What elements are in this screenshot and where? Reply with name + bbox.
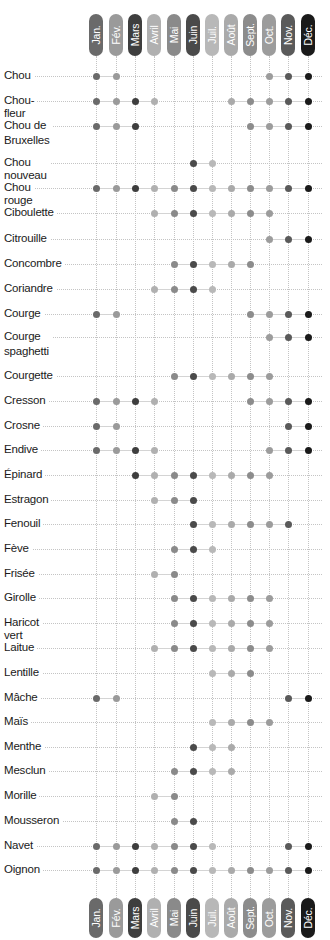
month-label: Fév. <box>110 909 122 928</box>
season-dot <box>190 620 197 627</box>
season-dot <box>151 210 158 217</box>
season-dot <box>285 423 292 430</box>
month-pill-bottom: Sept. <box>243 898 257 938</box>
produce-name: Morille <box>4 789 39 802</box>
month-label: Août <box>225 908 237 929</box>
season-dot <box>132 843 139 850</box>
produce-name-line: Bruxelles <box>4 134 50 147</box>
produce-name-line: Cresson <box>4 394 45 407</box>
row-gridline <box>10 426 322 427</box>
produce-name: Mousseron <box>4 814 62 827</box>
season-dot <box>209 719 216 726</box>
season-dot <box>266 867 273 874</box>
season-dot <box>132 472 139 479</box>
season-dot <box>171 867 178 874</box>
produce-name: Fève <box>4 542 32 555</box>
row-gridline <box>10 673 322 674</box>
season-dot <box>113 447 120 454</box>
produce-name: Estragon <box>4 493 51 506</box>
produce-name-line: Morille <box>4 789 36 802</box>
season-dot <box>305 73 312 80</box>
season-dot <box>93 398 100 405</box>
season-dot <box>190 185 197 192</box>
produce-name-line: Épinard <box>4 468 42 481</box>
season-dot <box>266 73 273 80</box>
season-dot <box>190 546 197 553</box>
season-dot <box>113 98 120 105</box>
season-dot <box>151 645 158 652</box>
season-dot <box>132 398 139 405</box>
produce-name: Épinard <box>4 468 45 481</box>
season-dot <box>132 867 139 874</box>
season-dot <box>171 472 178 479</box>
season-dot <box>93 447 100 454</box>
season-dot <box>305 334 312 341</box>
season-dot <box>113 695 120 702</box>
produce-name-line: Chou de <box>4 119 50 132</box>
month-pill-bottom: Août <box>224 898 238 938</box>
month-label: Fév. <box>110 26 122 45</box>
season-dot <box>113 123 120 130</box>
month-label: Juin <box>187 26 199 44</box>
produce-name: Frisée <box>4 567 38 580</box>
seasonal-produce-chart: Jan.Fév.MarsAvrilMaiJuinJuil.AoûtSept.Oc… <box>0 0 330 940</box>
season-dot <box>93 311 100 318</box>
produce-name-line: Navet <box>4 839 33 852</box>
month-label: Mai <box>168 910 180 926</box>
produce-name-line: Courge <box>4 330 49 343</box>
season-dot <box>171 546 178 553</box>
season-dot <box>209 472 216 479</box>
month-pill-top: Juil. <box>205 14 219 56</box>
season-dot <box>151 98 158 105</box>
season-dot <box>171 768 178 775</box>
season-dot <box>151 398 158 405</box>
season-dot <box>190 818 197 825</box>
season-dot <box>228 867 235 874</box>
season-dot <box>132 185 139 192</box>
month-label: Juil. <box>206 26 218 44</box>
produce-name-line: Endive <box>4 443 38 456</box>
season-dot <box>247 261 254 268</box>
season-dot <box>247 98 254 105</box>
row-gridline <box>10 771 322 772</box>
month-pill-bottom: Avril <box>147 898 161 938</box>
produce-name-line: Laitue <box>4 641 34 654</box>
season-dot <box>209 843 216 850</box>
produce-name-line: Fenouil <box>4 517 40 530</box>
season-dot <box>151 472 158 479</box>
season-dot <box>209 160 216 167</box>
row-gridline <box>10 549 322 550</box>
month-label: Déc. <box>302 908 314 929</box>
season-dot <box>209 744 216 751</box>
season-dot <box>247 472 254 479</box>
produce-name: Courge <box>4 307 44 320</box>
season-dot <box>285 73 292 80</box>
season-dot <box>266 472 273 479</box>
season-dot <box>171 373 178 380</box>
season-dot <box>151 867 158 874</box>
season-dot <box>305 123 312 130</box>
season-dot <box>171 818 178 825</box>
month-pill-bottom: Mars <box>128 898 142 938</box>
season-dot <box>266 373 273 380</box>
produce-name: Chou rouge <box>4 181 35 207</box>
produce-name-line: Estragon <box>4 493 48 506</box>
season-dot <box>305 98 312 105</box>
produce-name-line: Courgette <box>4 369 53 382</box>
month-pill-bottom: Nov. <box>281 898 295 938</box>
month-pill-bottom: Oct. <box>262 898 276 938</box>
season-dot <box>93 73 100 80</box>
produce-name: Navet <box>4 839 36 852</box>
season-dot <box>247 398 254 405</box>
season-dot <box>209 768 216 775</box>
produce-name: Courgette <box>4 369 56 382</box>
produce-name: Maïs <box>4 715 31 728</box>
season-dot <box>209 210 216 217</box>
season-dot <box>285 695 292 702</box>
month-pill-bottom: Fév. <box>109 898 123 938</box>
season-dot <box>171 185 178 192</box>
produce-name-line: Haricot vert <box>4 616 39 642</box>
month-label: Mars <box>129 24 141 47</box>
season-dot <box>247 210 254 217</box>
season-dot <box>247 867 254 874</box>
